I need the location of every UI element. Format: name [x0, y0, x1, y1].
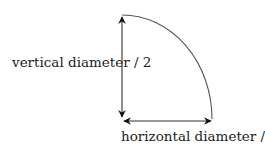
vertical-diameter-label: vertical diameter / 2 — [11, 54, 151, 70]
quarter-ellipse-diagram: vertical diameter / 2 horizontal diamete… — [0, 0, 265, 150]
horizontal-diameter-label: horizontal diameter / 2 — [121, 128, 265, 144]
